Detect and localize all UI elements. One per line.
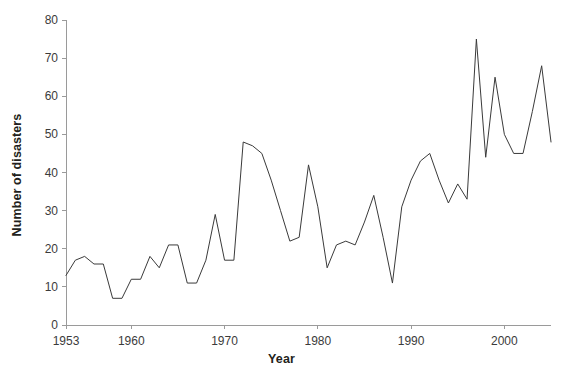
disasters-line-chart: Number of disasters Year 010203040506070… [0,0,563,385]
data-series-line [66,39,551,298]
y-tick-marks [62,20,66,325]
plot-area [0,0,563,385]
axes-group [62,20,551,329]
x-tick-marks [66,325,504,329]
